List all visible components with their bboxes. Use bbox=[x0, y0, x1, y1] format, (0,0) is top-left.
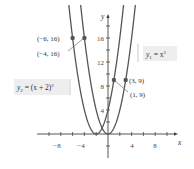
point-label-3-9: (3, 9) bbox=[129, 77, 145, 85]
point-neg6-16 bbox=[70, 36, 74, 40]
y-tick-label-8: 8 bbox=[101, 83, 105, 91]
x-tick-label-neg8: −8 bbox=[53, 142, 61, 150]
point-label-neg6-16: (−6, 16) bbox=[37, 35, 60, 43]
y-tick-label-16: 16 bbox=[97, 35, 105, 43]
point-label-neg4-16: (−4, 16) bbox=[37, 50, 60, 58]
x-axis-label: x bbox=[177, 138, 182, 147]
x-tick-label-4: 4 bbox=[130, 142, 134, 150]
y1-legend-label: y1 = x2 bbox=[145, 50, 167, 60]
x-tick-label-8: 8 bbox=[153, 142, 157, 150]
curve-y2 bbox=[69, 5, 124, 134]
y-tick-label-12: 12 bbox=[97, 59, 105, 67]
point-3-9 bbox=[124, 78, 128, 82]
point-1-9 bbox=[112, 78, 116, 82]
x-tick-label-neg4: −4 bbox=[77, 142, 85, 150]
parabola-chart: (−6, 16) (−4, 16) (3, 9) (1, 9) −8 −4 4 … bbox=[0, 0, 194, 169]
y-axis-label: y bbox=[100, 12, 105, 21]
leader-line-p2 bbox=[68, 38, 84, 51]
y-tick-label-4: 4 bbox=[101, 107, 105, 115]
point-neg4-16 bbox=[82, 36, 86, 40]
point-label-1-9: (1, 9) bbox=[130, 91, 146, 99]
